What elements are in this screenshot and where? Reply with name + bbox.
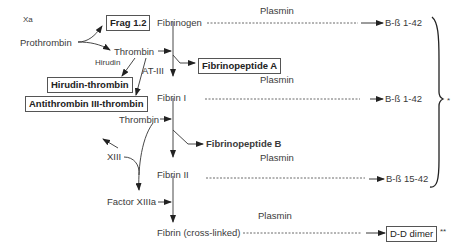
xiii-label: XIII — [107, 152, 121, 162]
plasmin-label-4: Plasmin — [258, 211, 292, 221]
plasmin-label-3: Plasmin — [260, 153, 294, 163]
frag12-box: Frag 1.2 — [106, 15, 150, 31]
antithrombin-thrombin-box: Antithrombin III-thrombin — [25, 96, 148, 112]
fibrinopeptide-a-box: Fibrinopeptide A — [198, 58, 281, 74]
thrombin-label-1: Thrombin — [114, 47, 154, 57]
fibrinogen-label: Fibrinogen — [157, 18, 202, 28]
bb-15-42-label: B-ß 15-42 — [386, 174, 428, 184]
prothrombin-label: Prothrombin — [20, 38, 72, 48]
thrombin-label-2: Thrombin — [119, 115, 159, 125]
fibrin-crosslinked-label: Fibrin (cross-linked) — [157, 228, 240, 238]
bb-1-42-label-1: B-ß 1-42 — [385, 18, 422, 28]
plasmin-label-2: Plasmin — [260, 75, 294, 85]
hirudin-label: Hirudin — [95, 59, 120, 67]
hirudin-thrombin-box: Hirudin-thrombin — [47, 77, 133, 93]
bb-1-42-label-2: B-ß 1-42 — [385, 94, 422, 104]
coagulation-diagram: Xa Frag 1.2 Prothrombin Thrombin Hirudin… — [0, 0, 465, 246]
plasmin-label-1: Plasmin — [260, 6, 294, 16]
factor-xiiia-label: Factor XIIIa — [107, 197, 156, 207]
fibrin-ii-label: Fibrin II — [157, 170, 189, 180]
at3-label: AT-III — [142, 66, 164, 76]
fibrin-i-label: Fibrin I — [157, 93, 186, 103]
fibrinopeptide-b-label: Fibrinopeptide B — [206, 139, 281, 149]
brace-asterisk: * — [447, 97, 450, 105]
dd-asterisks: ** — [440, 228, 446, 236]
dd-dimer-box: D-D dimer — [386, 226, 437, 242]
xa-label: Xa — [23, 16, 33, 24]
